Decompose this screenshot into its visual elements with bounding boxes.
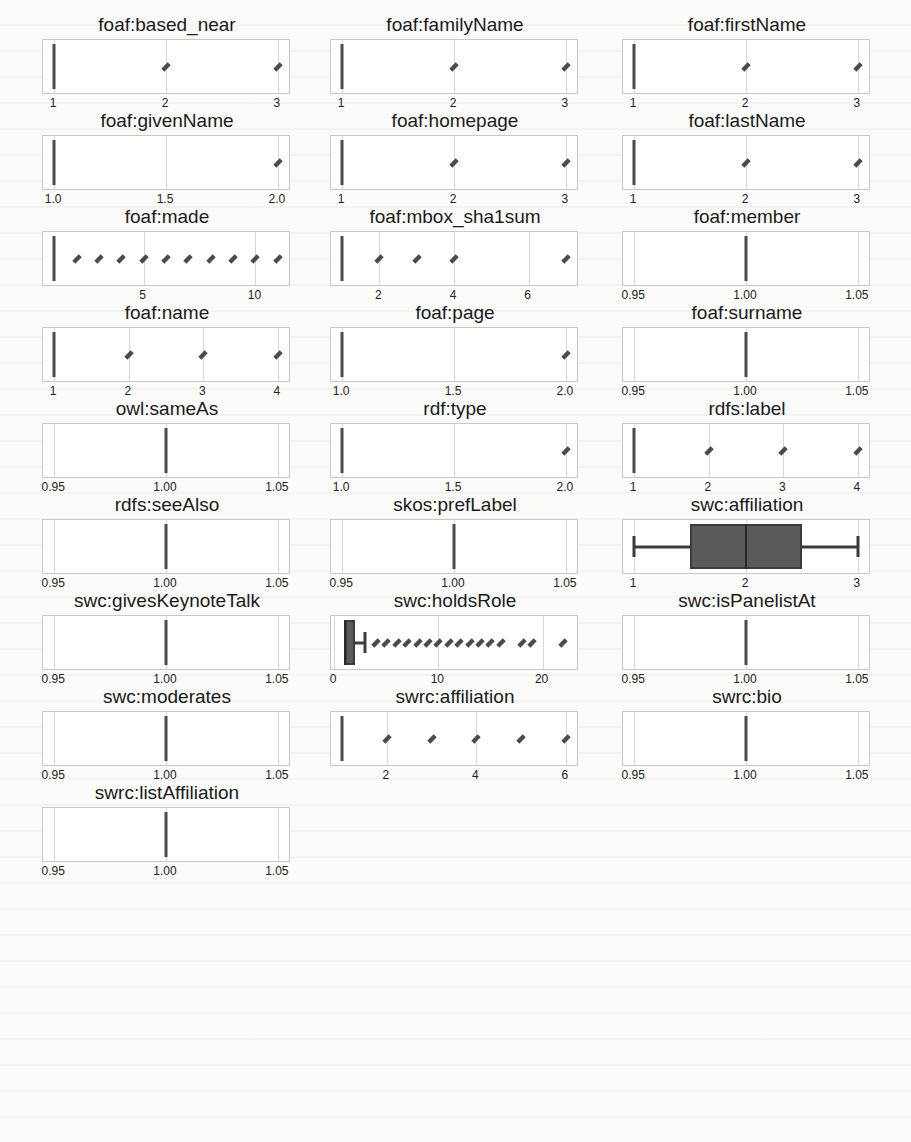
- tick-label: 3: [199, 384, 206, 398]
- tick-label: 1.5: [445, 480, 462, 494]
- iqr-box: [345, 620, 355, 665]
- plot-title: rdfs:label: [622, 398, 872, 420]
- plot-area: [622, 135, 870, 190]
- plot-area: [330, 135, 578, 190]
- tick-label: 1.00: [733, 288, 756, 302]
- gridline: [858, 616, 859, 669]
- tick-label: 0.95: [621, 672, 644, 686]
- tick-label: 1.05: [845, 768, 868, 782]
- gridline: [54, 712, 55, 765]
- median-line: [165, 524, 168, 569]
- median-line: [633, 428, 636, 473]
- boxplot-panel: rdfs:label1234: [622, 398, 872, 494]
- median-line: [165, 620, 168, 665]
- plot-title: foaf:member: [622, 206, 872, 228]
- tick-label: 3: [561, 192, 568, 206]
- tick-label: 2: [742, 96, 749, 110]
- gridline: [334, 616, 335, 669]
- plot-area: [330, 39, 578, 94]
- gridline: [858, 232, 859, 285]
- plot-title: foaf:made: [42, 206, 292, 228]
- tick-label: 1: [630, 480, 637, 494]
- tick-label: 0: [330, 672, 337, 686]
- plot-area: [622, 711, 870, 766]
- tick-label: 2: [375, 288, 382, 302]
- plot-area: [42, 423, 290, 478]
- gridline: [278, 616, 279, 669]
- plot-title: foaf:name: [42, 302, 292, 324]
- gridline: [54, 520, 55, 573]
- median-line: [745, 620, 748, 665]
- outlier-diamond-icon: [449, 254, 458, 263]
- boxplot-panel: swc:isPanelistAt0.951.001.05: [622, 590, 872, 686]
- tick-label: 10: [431, 672, 444, 686]
- outlier-diamond-icon: [273, 158, 282, 167]
- plot-area: [42, 231, 290, 286]
- outlier-diamond-icon: [412, 254, 421, 263]
- plot-title: skos:prefLabel: [330, 494, 580, 516]
- plot-title: foaf:page: [330, 302, 580, 324]
- tick-label: 1.00: [441, 576, 464, 590]
- tick-label: 0.95: [41, 768, 64, 782]
- tick-label: 0.95: [41, 864, 64, 878]
- boxplot-panel: foaf:member0.951.001.05: [622, 206, 872, 302]
- outlier-diamond-icon: [206, 254, 215, 263]
- median-line: [745, 716, 748, 761]
- plot-title: swrc:affiliation: [330, 686, 580, 708]
- outlier-diamond-icon: [273, 62, 282, 71]
- median-line: [633, 44, 636, 89]
- tick-label: 1.05: [265, 768, 288, 782]
- tick-label: 0.95: [621, 384, 644, 398]
- tick-label: 1.0: [333, 384, 350, 398]
- gridline: [54, 424, 55, 477]
- plot-area: [42, 711, 290, 766]
- tick-label: 4: [450, 288, 457, 302]
- tick-label: 6: [524, 288, 531, 302]
- outlier-diamond-icon: [465, 638, 474, 647]
- plot-title: foaf:mbox_sha1sum: [330, 206, 580, 228]
- outlier-diamond-icon: [475, 638, 484, 647]
- plot-area: [330, 231, 578, 286]
- median-line: [341, 428, 344, 473]
- outlier-diamond-icon: [517, 638, 526, 647]
- plot-title: foaf:familyName: [330, 14, 580, 36]
- outlier-diamond-icon: [382, 638, 391, 647]
- tick-label: 0.95: [621, 288, 644, 302]
- median-line: [341, 236, 344, 281]
- whisker-high: [802, 545, 858, 548]
- plot-title: swrc:bio: [622, 686, 872, 708]
- plot-area: [42, 807, 290, 862]
- boxplot-panel: foaf:familyName123: [330, 14, 580, 110]
- outlier-diamond-icon: [444, 638, 453, 647]
- plot-area: [330, 711, 578, 766]
- median-line: [341, 44, 344, 89]
- outlier-diamond-icon: [561, 62, 570, 71]
- gridline: [529, 232, 530, 285]
- tick-label: 1.05: [845, 384, 868, 398]
- plot-title: foaf:surname: [622, 302, 872, 324]
- outlier-diamond-icon: [199, 350, 208, 359]
- boxplot-panel: foaf:made510: [42, 206, 292, 302]
- outlier-diamond-icon: [184, 254, 193, 263]
- tick-label: 0.95: [41, 672, 64, 686]
- plot-title: owl:sameAs: [42, 398, 292, 420]
- plot-area: [42, 327, 290, 382]
- boxplot-panel: swc:moderates0.951.001.05: [42, 686, 292, 782]
- gridline: [166, 136, 167, 189]
- median-line: [341, 140, 344, 185]
- gridline: [342, 520, 343, 573]
- gridline: [278, 712, 279, 765]
- tick-label: 2: [742, 192, 749, 206]
- plot-area: [42, 615, 290, 670]
- outlier-diamond-icon: [423, 638, 432, 647]
- tick-label: 20: [535, 672, 548, 686]
- plot-title: foaf:givenName: [42, 110, 292, 132]
- outlier-diamond-icon: [392, 638, 401, 647]
- outlier-diamond-icon: [449, 62, 458, 71]
- outlier-diamond-icon: [72, 254, 81, 263]
- outlier-diamond-icon: [124, 350, 133, 359]
- outlier-diamond-icon: [853, 62, 862, 71]
- tick-label: 1.00: [733, 384, 756, 398]
- plot-area: [622, 327, 870, 382]
- outlier-diamond-icon: [779, 446, 788, 455]
